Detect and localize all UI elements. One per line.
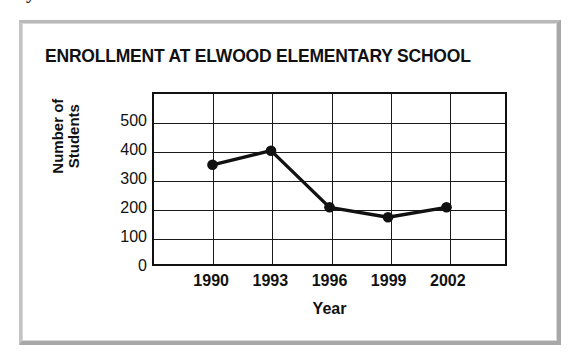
plot-area [152, 92, 507, 266]
chart-card: ENROLLMENT AT ELWOOD ELEMENTARY SCHOOL N… [19, 20, 561, 345]
y-axis-tick-label: 200 [85, 199, 147, 217]
y-axis-title-line2: Students [66, 71, 82, 201]
x-axis-tick-label: 2002 [413, 272, 483, 290]
clipped-header-text-line: years from 1990 to 2002. [26, 0, 232, 4]
chart-title: ENROLLMENT AT ELWOOD ELEMENTARY SCHOOL [45, 46, 471, 67]
x-axis-tick-labels: 19901993199619992002 [152, 272, 507, 296]
y-axis-tick-label: 400 [85, 141, 147, 159]
data-point-marker [441, 202, 452, 213]
y-axis-tick-label: 0 [85, 257, 147, 275]
y-axis-tick-label: 500 [85, 112, 147, 130]
data-point-marker [383, 212, 394, 223]
y-axis-title: Number of Students [50, 71, 82, 201]
enrollment-line-series [154, 94, 505, 264]
y-axis-tick-label: 300 [85, 170, 147, 188]
y-axis-tick-label: 100 [85, 228, 147, 246]
clipped-header-text: years from 1990 to 2002. [0, 0, 582, 20]
chart-card-inner: ENROLLMENT AT ELWOOD ELEMENTARY SCHOOL N… [22, 23, 557, 341]
data-point-marker [207, 160, 218, 171]
data-point-marker [266, 145, 277, 156]
x-axis-title: Year [152, 300, 507, 318]
y-axis-title-line1: Number of [50, 71, 66, 201]
data-point-marker [324, 202, 335, 213]
y-axis-tick-labels: 5004003002001000 [85, 92, 147, 266]
